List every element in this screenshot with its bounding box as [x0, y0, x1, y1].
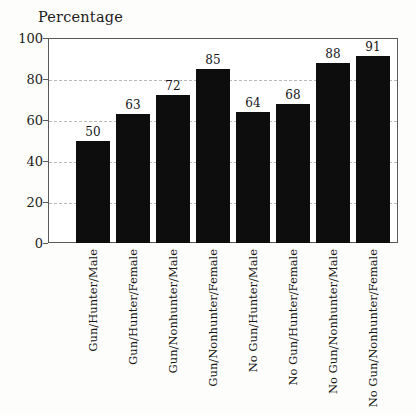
bar-value-label: 68	[273, 88, 313, 102]
x-axis-tick-label: Gun/Nonhunter/Male	[156, 247, 190, 397]
bar-value-label: 50	[73, 125, 113, 139]
bar	[236, 112, 270, 243]
bars-layer: 5063728564688891	[48, 38, 398, 243]
x-axis-tick-label-text: No Gun/Hunter/Female	[286, 249, 300, 386]
y-tick-label: 100	[18, 31, 43, 46]
bar	[356, 56, 390, 243]
x-axis-tick-label-text: No Gun/Hunter/Male	[246, 249, 260, 372]
bar-value-label: 91	[353, 40, 393, 54]
y-tick-mark	[43, 243, 48, 244]
x-axis-tick-label: No Gun/Nonhunter/Male	[316, 247, 350, 397]
x-axis-tick-label: No Gun/Nonhunter/Female	[356, 247, 390, 397]
bar-value-label: 63	[113, 98, 153, 112]
y-tick-label: 80	[26, 72, 43, 87]
y-tick-label: 60	[26, 113, 43, 128]
y-tick-label: 40	[26, 154, 43, 169]
x-axis-tick-label-text: No Gun/Nonhunter/Male	[326, 249, 340, 394]
y-tick-label: 0	[35, 236, 43, 251]
y-tick-label: 20	[26, 195, 43, 210]
x-axis-tick-label: No Gun/Hunter/Female	[276, 247, 310, 397]
x-axis-tick-label-text: Gun/Hunter/Female	[126, 249, 140, 365]
bar	[116, 114, 150, 243]
bar-value-label: 88	[313, 47, 353, 61]
x-axis-tick-label: Gun/Hunter/Female	[116, 247, 150, 397]
y-axis: 020406080100	[0, 38, 43, 243]
bar	[316, 63, 350, 243]
bar	[156, 95, 190, 243]
x-axis-tick-label: No Gun/Hunter/Male	[236, 247, 270, 397]
bar-value-label: 64	[233, 96, 273, 110]
x-axis-tick-label-text: No Gun/Nonhunter/Female	[366, 249, 380, 407]
chart-title: Percentage	[38, 9, 123, 25]
bar	[76, 141, 110, 244]
x-axis-tick-label-text: Gun/Nonhunter/Female	[206, 249, 220, 387]
x-axis-tick-label-text: Gun/Hunter/Male	[86, 249, 100, 352]
bar	[276, 104, 310, 243]
x-axis-tick-label-text: Gun/Nonhunter/Male	[166, 249, 180, 373]
x-axis-tick-label: Gun/Nonhunter/Female	[196, 247, 230, 397]
bar-value-label: 85	[193, 53, 233, 67]
x-axis-labels: Gun/Hunter/MaleGun/Hunter/FemaleGun/Nonh…	[48, 247, 398, 407]
bar-value-label: 72	[153, 79, 193, 93]
x-axis-tick-label: Gun/Hunter/Male	[76, 247, 110, 397]
bar	[196, 69, 230, 243]
bar-chart-figure: Percentage 020406080100 5063728564688891…	[0, 0, 416, 415]
